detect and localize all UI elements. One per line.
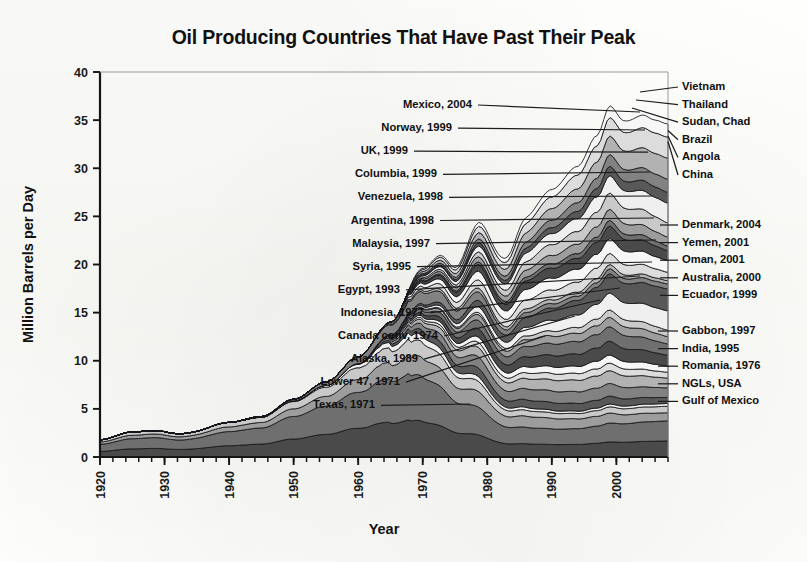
leader-line bbox=[414, 151, 648, 152]
y-tick-label: 25 bbox=[74, 210, 88, 224]
x-tick-label: 1920 bbox=[94, 471, 108, 499]
annotation-label-left: Syria, 1995 bbox=[353, 260, 411, 272]
annotation-label-right: Brazil bbox=[682, 133, 712, 145]
y-tick-label: 20 bbox=[74, 258, 88, 272]
annotation-label-left: Texas, 1971 bbox=[313, 398, 375, 410]
x-tick-label: 1940 bbox=[223, 471, 237, 499]
annotation-label-left: Mexico, 2004 bbox=[403, 98, 473, 110]
x-tick-label: 1930 bbox=[158, 471, 172, 499]
y-tick-label: 35 bbox=[74, 114, 88, 128]
annotation-label-left: Alaska, 1989 bbox=[351, 352, 418, 364]
annotation-label-right: Sudan, Chad bbox=[682, 115, 751, 127]
annotation-label-left: Norway, 1999 bbox=[381, 121, 452, 133]
annotation-label-right: Gulf of Mexico bbox=[682, 394, 759, 406]
x-tick-label: 1960 bbox=[352, 471, 366, 499]
y-tick-label: 5 bbox=[81, 402, 88, 416]
area-chart: 0510152025303540192019301940195019601970… bbox=[0, 0, 807, 562]
annotation-label-right: Romania, 1976 bbox=[682, 359, 760, 371]
leader-line bbox=[636, 100, 678, 105]
annotation-label-left: Egypt, 1993 bbox=[338, 283, 400, 295]
y-tick-label: 30 bbox=[74, 162, 88, 176]
annotation-label-left: Venezuela, 1998 bbox=[358, 190, 443, 202]
annotation-label-right: Vietnam bbox=[682, 80, 725, 92]
annotation-label-right: Ecuador, 1999 bbox=[682, 288, 757, 300]
x-tick-label: 1950 bbox=[287, 471, 301, 499]
annotation-label-right: Yemen, 2001 bbox=[682, 236, 749, 248]
annotation-label-right: China bbox=[682, 168, 714, 180]
annotation-label-left: Malaysia, 1997 bbox=[352, 237, 430, 249]
annotation-label-right: Australia, 2000 bbox=[682, 271, 761, 283]
x-tick-label: 1990 bbox=[545, 471, 559, 499]
annotation-label-right: Denmark, 2004 bbox=[682, 218, 762, 230]
annotation-label-right: Thailand bbox=[682, 98, 728, 110]
y-tick-label: 15 bbox=[74, 306, 88, 320]
annotation-label-right: Oman, 2001 bbox=[682, 253, 745, 265]
y-tick-label: 40 bbox=[74, 66, 88, 80]
annotation-label-right: Gabbon, 1997 bbox=[682, 324, 755, 336]
y-tick-label: 10 bbox=[74, 354, 88, 368]
leader-line bbox=[478, 105, 640, 112]
y-axis-title: Million Barrels per Day bbox=[20, 186, 36, 343]
stacked-area-bands bbox=[100, 106, 668, 457]
annotation-label-right: NGLs, USA bbox=[682, 377, 742, 389]
x-axis-title: Year bbox=[369, 521, 400, 537]
annotation-label-left: Lower 47, 1971 bbox=[320, 375, 400, 387]
annotation-label-left: Argentina, 1998 bbox=[351, 214, 434, 226]
y-tick-label: 0 bbox=[81, 451, 88, 465]
annotation-label-right: India, 1995 bbox=[682, 342, 739, 354]
x-tick-label: 1970 bbox=[416, 471, 430, 499]
annotation-label-left: Canada conv, 1974 bbox=[338, 329, 439, 341]
x-tick-label: 2000 bbox=[610, 471, 624, 499]
annotation-label-left: UK, 1999 bbox=[361, 144, 408, 156]
annotation-label-left: Indonesia, 1977 bbox=[341, 306, 424, 318]
x-tick-label: 1980 bbox=[481, 471, 495, 499]
annotation-label-right: Angola bbox=[682, 150, 721, 162]
leader-line bbox=[640, 87, 678, 92]
annotation-label-left: Columbia, 1999 bbox=[355, 167, 437, 179]
